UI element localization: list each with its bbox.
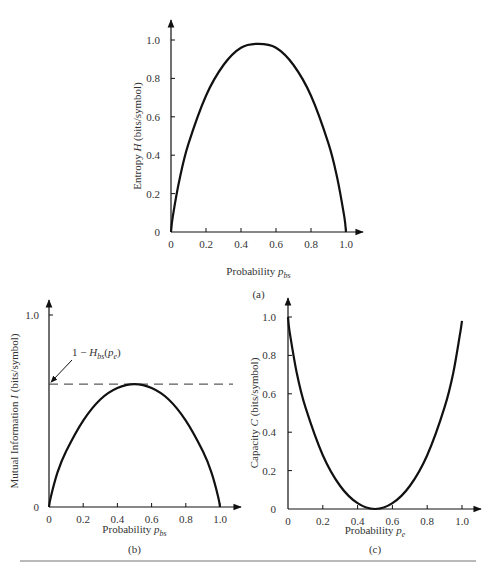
x-tick-label: 0.2 <box>76 513 90 525</box>
chart-b-x-axis-label: Probability pbs <box>102 523 166 538</box>
x-tick-label: 0.8 <box>420 515 434 527</box>
chart-b-ticks: 00.20.40.60.81.001.0 <box>25 309 227 525</box>
chart-a-entropy: 00.20.40.60.81.000.20.40.60.81.0 Probabi… <box>131 20 363 301</box>
y-tick-label: 0 <box>34 501 40 513</box>
chart-a-entropy-curve <box>171 44 346 232</box>
y-tick-label: 0.8 <box>146 72 160 84</box>
chart-a-ticks: 00.20.40.60.81.000.20.40.60.81.0 <box>146 34 353 250</box>
y-tick-label: 0 <box>155 226 161 238</box>
chart-c-caption: (c) <box>369 543 382 556</box>
x-tick-label: 0 <box>168 238 174 250</box>
chart-c-axes <box>288 298 481 509</box>
y-tick-label: 0.6 <box>262 388 276 400</box>
x-tick-label: 0.2 <box>316 515 330 527</box>
chart-a-x-axis-label: Probability pbs <box>226 265 290 280</box>
x-tick-label: 0.8 <box>304 238 318 250</box>
y-tick-label: 0.2 <box>262 465 276 477</box>
x-tick-label: 0.2 <box>199 238 213 250</box>
chart-b-y-axis-label: Mutual Information I (bits/symbol) <box>8 333 21 488</box>
y-tick-label: 0.4 <box>262 426 276 438</box>
x-tick-label: 0.8 <box>179 513 193 525</box>
chart-b-annotation-arrow <box>51 360 72 382</box>
chart-c-ticks: 00.20.40.60.81.000.20.40.60.81.0 <box>262 311 469 527</box>
chart-c-y-axis-label: Capacity C (bits/symbol) <box>248 357 261 468</box>
y-tick-label: 0.6 <box>146 111 160 123</box>
chart-b-annotation-label: 1 − Hbs(pe) <box>72 346 121 361</box>
y-tick-label: 1.0 <box>25 309 39 321</box>
chart-a-caption: (a) <box>252 288 265 301</box>
y-tick-label: 0.2 <box>146 188 160 200</box>
x-tick-label: 0 <box>46 513 52 525</box>
y-tick-label: 1.0 <box>262 311 276 323</box>
chart-a-y-axis-label: Entropy H (bits/symbol) <box>131 82 144 190</box>
x-tick-label: 0.4 <box>234 238 248 250</box>
y-tick-label: 0.8 <box>262 349 276 361</box>
x-tick-label: 0 <box>285 515 291 527</box>
y-tick-label: 0 <box>271 503 277 515</box>
chart-c-x-axis-label: Probability pe <box>345 524 406 539</box>
x-tick-label: 1.0 <box>213 513 227 525</box>
chart-b-mutual-information-curve <box>49 384 220 507</box>
chart-b-mutual-information: 00.20.40.60.81.001.0 1 − Hbs(pe) Probabi… <box>8 300 241 556</box>
y-tick-label: 0.4 <box>146 149 160 161</box>
figure: 00.20.40.60.81.000.20.40.60.81.0 Probabi… <box>0 0 494 574</box>
y-tick-label: 1.0 <box>146 34 160 46</box>
chart-c-capacity-curve <box>288 317 462 509</box>
x-tick-label: 1.0 <box>339 238 353 250</box>
x-tick-label: 0.6 <box>269 238 283 250</box>
chart-c-capacity: 00.20.40.60.81.000.20.40.60.81.0 Probabi… <box>248 298 481 556</box>
x-tick-label: 1.0 <box>455 515 469 527</box>
chart-b-caption: (b) <box>128 543 141 556</box>
chart-a-axes <box>171 20 363 232</box>
